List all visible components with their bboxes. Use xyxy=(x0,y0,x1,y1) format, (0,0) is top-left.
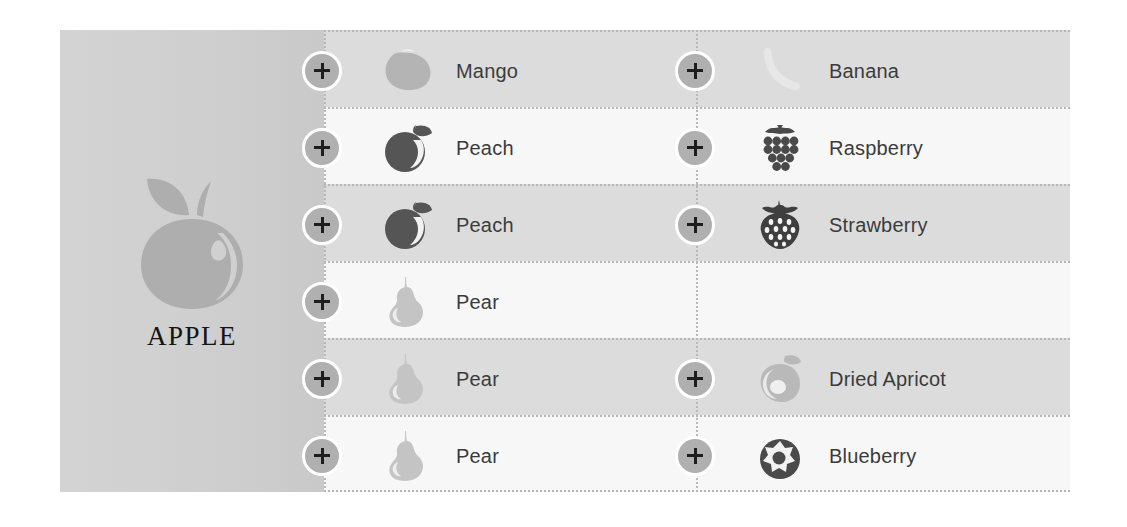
fruit-label: Mango xyxy=(456,59,518,82)
add-button[interactable] xyxy=(675,51,715,91)
plus-icon-vertical xyxy=(694,371,697,387)
fruit-label: Dried Apricot xyxy=(829,367,946,390)
plus-icon-vertical xyxy=(321,217,324,233)
fruit-label: Raspberry xyxy=(829,136,923,159)
add-button[interactable] xyxy=(302,436,342,476)
add-button[interactable] xyxy=(675,436,715,476)
brand-panel: APPLE xyxy=(60,30,324,492)
fruit-label: Banana xyxy=(829,59,899,82)
fruit-label: Pear xyxy=(456,444,499,467)
fruit-cell-right[interactable]: Dried Apricot xyxy=(697,340,1070,417)
fruit-cell-right[interactable]: Strawberry xyxy=(697,186,1070,263)
pear-icon xyxy=(380,275,434,329)
pear-icon xyxy=(380,352,434,406)
dried-apricot-icon xyxy=(753,352,807,406)
pear-icon xyxy=(380,429,434,483)
fruit-label: Pear xyxy=(456,290,499,313)
fruit-cell-right[interactable]: Raspberry xyxy=(697,109,1070,186)
table-row: Pear Dried Apricot xyxy=(324,338,1070,415)
plus-icon-vertical xyxy=(694,217,697,233)
fruit-label: Strawberry xyxy=(829,213,928,236)
plus-icon-vertical xyxy=(694,63,697,79)
table-row: Mango Banana xyxy=(324,30,1070,107)
plus-icon-vertical xyxy=(321,140,324,156)
fruit-cell-left[interactable]: Peach xyxy=(324,186,697,263)
peach-icon xyxy=(380,121,434,175)
add-button[interactable] xyxy=(302,128,342,168)
add-button[interactable] xyxy=(675,359,715,399)
fruit-cell-left[interactable]: Pear xyxy=(324,417,697,494)
blueberry-icon xyxy=(753,429,807,483)
plus-icon-vertical xyxy=(321,63,324,79)
add-button[interactable] xyxy=(302,51,342,91)
fruit-cell-left[interactable]: Mango xyxy=(324,32,697,109)
fruit-cell-right[interactable]: Blueberry xyxy=(697,417,1070,494)
table-row: Peach Strawberry xyxy=(324,184,1070,261)
banana-icon xyxy=(753,44,807,98)
peach-icon xyxy=(380,198,434,252)
mango-icon xyxy=(380,44,434,98)
apple-icon xyxy=(137,171,247,311)
plus-icon-vertical xyxy=(694,140,697,156)
fruit-cell-left[interactable]: Pear xyxy=(324,263,697,340)
raspberry-icon xyxy=(753,121,807,175)
add-button[interactable] xyxy=(302,359,342,399)
fruit-label: Peach xyxy=(456,136,514,159)
add-button[interactable] xyxy=(302,205,342,245)
table-row: Pear Blueberry xyxy=(324,415,1070,492)
fruit-label: Peach xyxy=(456,213,514,236)
infographic-canvas: APPLE Mango Banana Peach xyxy=(0,0,1127,527)
strawberry-icon xyxy=(753,198,807,252)
add-button[interactable] xyxy=(675,128,715,168)
plus-icon-vertical xyxy=(694,448,697,464)
fruit-rows: Mango Banana Peach Raspb xyxy=(324,30,1070,492)
fruit-cell-right[interactable]: Banana xyxy=(697,32,1070,109)
add-button[interactable] xyxy=(675,205,715,245)
fruit-cell-left[interactable]: Pear xyxy=(324,340,697,417)
table-row: Peach Raspberry xyxy=(324,107,1070,184)
fruit-label: Pear xyxy=(456,367,499,390)
plus-icon-vertical xyxy=(321,294,324,310)
fruit-label: Blueberry xyxy=(829,444,916,467)
fruit-board: APPLE Mango Banana Peach xyxy=(60,30,1070,492)
fruit-cell-left[interactable]: Peach xyxy=(324,109,697,186)
page-title: APPLE xyxy=(147,321,237,352)
add-button[interactable] xyxy=(302,282,342,322)
plus-icon-vertical xyxy=(321,448,324,464)
plus-icon-vertical xyxy=(321,371,324,387)
